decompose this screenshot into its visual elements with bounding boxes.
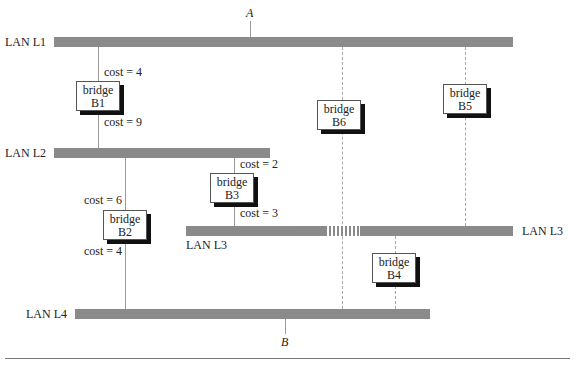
cost-b2-l2: cost = 6: [84, 194, 122, 206]
lan-l3-blocked-segment: [325, 226, 360, 236]
cost-b3-l2: cost = 2: [240, 158, 278, 170]
endpoint-b-link: [285, 319, 286, 334]
bridge-b5[interactable]: bridge B5: [443, 84, 487, 114]
bridge-b6-id: B6: [318, 116, 360, 129]
lan-l4-label: LAN L4: [26, 308, 67, 320]
cost-b1-l2: cost = 9: [104, 116, 142, 128]
endpoint-b-label: B: [281, 336, 288, 348]
endpoint-a-label: A: [246, 7, 253, 19]
cost-b3-l3: cost = 3: [240, 207, 278, 219]
lan-l3-label-right: LAN L3: [522, 225, 563, 237]
bridge-b1[interactable]: bridge B1: [76, 81, 120, 111]
bridge-b2[interactable]: bridge B2: [103, 210, 147, 240]
cost-b1-l1: cost = 4: [104, 66, 142, 78]
bridge-b3[interactable]: bridge B3: [210, 173, 254, 203]
lan-l1: [54, 37, 513, 47]
b6-link-dashed: [342, 47, 343, 309]
bridge-b2-id: B2: [104, 226, 146, 239]
lan-l1-label: LAN L1: [5, 36, 46, 48]
bridge-b4-id: B4: [373, 269, 415, 282]
lan-l3-label: LAN L3: [186, 239, 227, 251]
lan-l2-label: LAN L2: [5, 147, 46, 159]
endpoint-a-link: [250, 21, 251, 37]
lan-l2: [54, 148, 270, 158]
cost-b2-l4: cost = 4: [84, 245, 122, 257]
lan-l4: [75, 309, 430, 319]
bridge-b6[interactable]: bridge B6: [317, 100, 361, 130]
bridge-b4[interactable]: bridge B4: [372, 253, 416, 283]
bridge-b1-id: B1: [77, 97, 119, 110]
bridge-b3-id: B3: [211, 189, 253, 202]
figure-bottom-rule: [5, 358, 570, 359]
b5-link-dashed: [465, 47, 466, 226]
bridge-b5-id: B5: [444, 100, 486, 113]
